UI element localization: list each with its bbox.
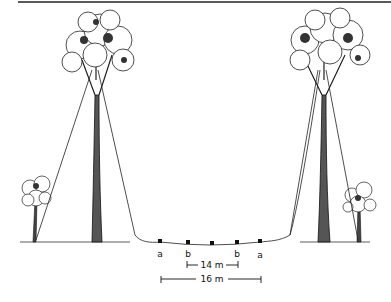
dimension-14m-label: 14 m bbox=[200, 260, 223, 270]
dimension-16m-label: 16 m bbox=[200, 274, 223, 284]
rope-markers bbox=[158, 239, 262, 245]
marker-label-b-left: b bbox=[185, 249, 191, 259]
canopy-rope-illustration: a b b a 14 m 16 m bbox=[0, 0, 391, 302]
marker-label-a-left: a bbox=[157, 249, 163, 259]
left-small-tree bbox=[22, 176, 51, 242]
left-tall-tree bbox=[62, 10, 134, 242]
marker-label-a-right: a bbox=[257, 250, 263, 260]
marker-label-b-right: b bbox=[234, 249, 240, 259]
right-small-tree bbox=[343, 182, 376, 242]
rope-lines bbox=[36, 70, 358, 245]
